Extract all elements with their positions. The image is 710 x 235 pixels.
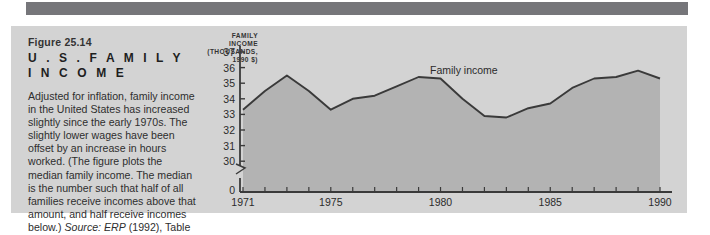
figure-source-italic: Source: ERP (65, 221, 126, 233)
y-axis-tick-label: 35 (223, 77, 235, 89)
figure-title-line-2: I N C O M E (28, 66, 127, 80)
figure-body-text: Adjusted for inflation, family income in… (28, 90, 198, 235)
family-income-chart: FAMILY INCOME (THOUSANDS, 1990 $) 373635… (198, 30, 678, 210)
y-axis-zero-label: 0 (229, 184, 235, 196)
y-axis-tick-label: 30 (223, 155, 235, 167)
x-axis-tick-label: 1971 (231, 196, 255, 208)
y-axis-tick-label: 36 (223, 62, 235, 74)
figure-title: U . S . F A M I L Y I N C O M E (28, 51, 198, 81)
y-axis-tick-label: 37 (223, 46, 235, 58)
figure-caption-block: Figure 25.14 U . S . F A M I L Y I N C O… (28, 36, 198, 235)
series-label: Family income (430, 64, 498, 76)
x-axis-tick-label: 1990 (648, 196, 672, 208)
page-header-bar (26, 2, 688, 15)
y-axis-tick-label: 31 (223, 140, 235, 152)
figure-title-line-1: U . S . F A M I L Y (28, 51, 184, 65)
x-axis-tick-label: 1985 (539, 196, 563, 208)
figure-number: Figure 25.14 (28, 36, 198, 48)
y-axis-tick-label: 34 (223, 93, 235, 105)
chart-svg: 3736353433323130019711975198019851990Fam… (198, 30, 678, 210)
x-axis-tick-label: 1975 (319, 196, 343, 208)
figure-body-main: Adjusted for inflation, family income in… (28, 90, 196, 233)
y-axis-tick-label: 33 (223, 108, 235, 120)
y-axis-tick-label: 32 (223, 124, 235, 136)
x-axis-tick-label: 1980 (429, 196, 453, 208)
